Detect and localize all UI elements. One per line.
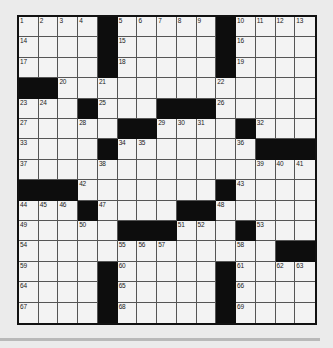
grid-cell[interactable] [39,37,59,57]
grid-cell[interactable]: 20 [58,78,78,98]
grid-cell[interactable] [39,262,59,282]
grid-cell[interactable] [157,282,177,302]
grid-cell[interactable]: 13 [295,17,315,37]
grid-cell[interactable]: 26 [216,99,236,119]
grid-cell[interactable]: 45 [39,201,59,221]
grid-cell[interactable] [197,282,217,302]
grid-cell[interactable]: 29 [157,119,177,139]
grid-cell[interactable] [78,58,98,78]
grid-cell[interactable]: 44 [19,201,39,221]
grid-cell[interactable] [256,282,276,302]
grid-cell[interactable]: 41 [295,160,315,180]
grid-cell[interactable]: 42 [78,180,98,200]
grid-cell[interactable]: 37 [19,160,39,180]
grid-cell[interactable]: 22 [216,78,236,98]
grid-cell[interactable] [58,58,78,78]
grid-cell[interactable] [276,78,296,98]
grid-cell[interactable] [78,303,98,323]
grid-cell[interactable] [58,282,78,302]
grid-cell[interactable]: 1 [19,17,39,37]
grid-cell[interactable] [137,160,157,180]
grid-cell[interactable]: 67 [19,303,39,323]
grid-cell[interactable]: 11 [256,17,276,37]
grid-cell[interactable] [256,262,276,282]
grid-cell[interactable]: 6 [137,17,157,37]
grid-cell[interactable] [216,160,236,180]
grid-cell[interactable]: 63 [295,262,315,282]
grid-cell[interactable] [216,139,236,159]
grid-cell[interactable] [118,201,138,221]
grid-cell[interactable] [78,37,98,57]
grid-cell[interactable]: 64 [19,282,39,302]
grid-cell[interactable]: 43 [236,180,256,200]
grid-cell[interactable] [276,221,296,241]
grid-cell[interactable] [295,119,315,139]
grid-cell[interactable] [197,160,217,180]
grid-cell[interactable]: 16 [236,37,256,57]
grid-cell[interactable]: 48 [216,201,236,221]
grid-cell[interactable] [197,78,217,98]
grid-cell[interactable] [157,262,177,282]
grid-cell[interactable]: 60 [118,262,138,282]
grid-cell[interactable] [295,201,315,221]
grid-cell[interactable] [197,58,217,78]
grid-cell[interactable]: 21 [98,78,118,98]
grid-cell[interactable] [295,180,315,200]
grid-cell[interactable] [256,180,276,200]
grid-cell[interactable]: 47 [98,201,118,221]
grid-cell[interactable] [78,160,98,180]
grid-cell[interactable] [78,241,98,261]
grid-cell[interactable] [39,160,59,180]
grid-cell[interactable] [216,241,236,261]
grid-cell[interactable] [39,58,59,78]
grid-cell[interactable] [197,180,217,200]
grid-cell[interactable] [118,180,138,200]
grid-cell[interactable] [39,303,59,323]
grid-cell[interactable] [157,37,177,57]
grid-cell[interactable] [177,180,197,200]
grid-cell[interactable] [197,37,217,57]
grid-cell[interactable] [157,160,177,180]
grid-cell[interactable]: 30 [177,119,197,139]
grid-cell[interactable] [276,303,296,323]
grid-cell[interactable] [137,262,157,282]
grid-cell[interactable] [276,282,296,302]
grid-cell[interactable] [137,180,157,200]
grid-cell[interactable] [58,37,78,57]
grid-cell[interactable] [197,241,217,261]
grid-cell[interactable] [177,37,197,57]
grid-cell[interactable]: 39 [256,160,276,180]
grid-cell[interactable] [295,37,315,57]
grid-cell[interactable] [58,160,78,180]
grid-cell[interactable] [137,58,157,78]
grid-cell[interactable] [78,78,98,98]
grid-cell[interactable]: 24 [39,99,59,119]
grid-cell[interactable] [216,119,236,139]
grid-cell[interactable]: 46 [58,201,78,221]
grid-cell[interactable] [276,201,296,221]
grid-cell[interactable] [58,221,78,241]
grid-cell[interactable] [177,160,197,180]
grid-cell[interactable] [295,78,315,98]
grid-cell[interactable] [157,78,177,98]
grid-cell[interactable]: 4 [78,17,98,37]
grid-cell[interactable] [157,58,177,78]
grid-cell[interactable]: 40 [276,160,296,180]
grid-cell[interactable] [177,282,197,302]
grid-cell[interactable] [157,303,177,323]
grid-cell[interactable] [197,262,217,282]
grid-cell[interactable] [58,139,78,159]
grid-cell[interactable] [157,180,177,200]
grid-cell[interactable]: 18 [118,58,138,78]
grid-cell[interactable]: 28 [78,119,98,139]
grid-cell[interactable]: 33 [19,139,39,159]
grid-cell[interactable] [256,78,276,98]
grid-cell[interactable] [39,282,59,302]
grid-cell[interactable] [137,303,157,323]
grid-cell[interactable] [137,78,157,98]
grid-cell[interactable] [78,282,98,302]
grid-cell[interactable] [137,99,157,119]
grid-cell[interactable] [98,119,118,139]
grid-cell[interactable]: 55 [118,241,138,261]
grid-cell[interactable] [295,58,315,78]
